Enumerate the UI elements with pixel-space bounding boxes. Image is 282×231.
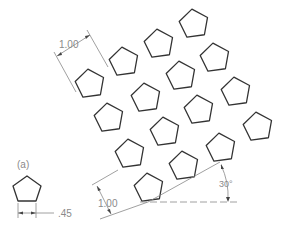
left-spacing-label: 1.00 [98,198,118,209]
size-label: .45 [58,208,72,219]
left-spacing-dimension [92,170,148,219]
size-dimension [18,203,54,218]
reference-pentagon [13,176,41,201]
top-spacing-label: 1.00 [59,39,79,50]
pentagon-array [74,7,274,202]
angle-label: 30° [219,179,233,189]
label-a: (a) [17,159,29,170]
technical-drawing: (a) .45 1.00 [0,0,282,231]
